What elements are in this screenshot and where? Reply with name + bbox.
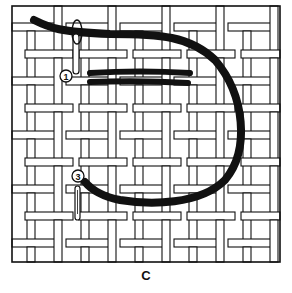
canvas-thread-horizontal — [25, 104, 73, 112]
canvas-thread-vertical — [270, 112, 278, 160]
canvas-thread-horizontal — [133, 158, 181, 166]
canvas-thread-vertical — [108, 112, 116, 160]
canvas-thread-horizontal — [174, 239, 222, 247]
canvas-thread-horizontal — [187, 104, 235, 112]
canvas-thread-horizontal — [133, 212, 181, 220]
canvas-thread-horizontal — [228, 77, 276, 85]
canvas-thread-horizontal — [174, 23, 222, 31]
canvas-thread-vertical — [270, 220, 278, 262]
canvas-thread-horizontal — [79, 104, 127, 112]
canvas-thread-vertical — [270, 6, 278, 52]
canvas-thread-horizontal — [25, 158, 73, 166]
canvas-thread-horizontal — [66, 131, 114, 139]
canvas-thread-vertical — [81, 247, 89, 262]
canvas-thread-vertical — [108, 6, 116, 52]
canvas-thread-horizontal — [133, 50, 181, 58]
canvas-thread-horizontal — [228, 185, 276, 193]
canvas-thread-horizontal — [120, 23, 168, 31]
figure-caption: C — [0, 268, 292, 283]
canvas-thread-vertical — [108, 220, 116, 262]
label-step-1: 1 — [60, 70, 72, 82]
canvas-thread-horizontal — [133, 104, 181, 112]
canvas-thread-horizontal — [25, 50, 73, 58]
needlepoint-diagram: 1 3 — [0, 0, 292, 293]
stitch-upper — [90, 72, 190, 74]
canvas-thread-vertical — [216, 6, 224, 52]
label-step-1-text: 1 — [63, 72, 68, 82]
canvas-thread-horizontal — [66, 239, 114, 247]
canvas-thread-vertical — [270, 166, 278, 214]
canvas-thread-horizontal — [79, 158, 127, 166]
canvas-thread-vertical — [162, 6, 170, 52]
canvas-thread-vertical — [270, 58, 278, 106]
canvas-thread-horizontal — [228, 131, 276, 139]
canvas-thread-horizontal — [120, 131, 168, 139]
canvas-thread-horizontal — [120, 185, 168, 193]
canvas-thread-vertical — [162, 112, 170, 160]
canvas-thread-horizontal — [228, 23, 276, 31]
canvas-thread-vertical — [135, 247, 143, 262]
canvas-thread-vertical — [54, 112, 62, 160]
canvas-thread-horizontal — [241, 212, 280, 220]
canvas-thread-horizontal — [79, 50, 127, 58]
canvas-thread-horizontal — [120, 239, 168, 247]
canvas-thread-vertical — [54, 220, 62, 262]
canvas-thread-horizontal — [12, 239, 60, 247]
canvas-thread-horizontal — [12, 185, 60, 193]
canvas-thread-horizontal — [79, 212, 127, 220]
canvas-thread-horizontal — [187, 212, 235, 220]
canvas-thread-vertical — [54, 166, 62, 214]
canvas-thread-vertical — [243, 247, 251, 262]
stitch-lower — [90, 81, 188, 83]
canvas-thread-horizontal — [241, 104, 280, 112]
canvas-thread-vertical — [108, 166, 116, 214]
canvas-thread-horizontal — [174, 131, 222, 139]
canvas-thread-vertical — [27, 247, 35, 262]
canvas-thread-horizontal — [12, 131, 60, 139]
canvas-thread-horizontal — [241, 50, 280, 58]
canvas-thread-vertical — [216, 220, 224, 262]
canvas-thread-horizontal — [187, 158, 235, 166]
canvas-thread-vertical — [216, 112, 224, 160]
canvas-thread-horizontal — [25, 212, 73, 220]
canvas-thread-horizontal — [241, 158, 280, 166]
canvas-thread-vertical — [189, 247, 197, 262]
canvas-thread-vertical — [162, 220, 170, 262]
canvas-thread-horizontal — [12, 77, 60, 85]
needle-bottom — [75, 186, 80, 220]
canvas-thread-horizontal — [228, 239, 276, 247]
label-step-3-text: 3 — [75, 172, 80, 182]
canvas-thread-vertical — [162, 166, 170, 214]
label-step-3: 3 — [72, 170, 84, 182]
canvas-thread-vertical — [54, 58, 62, 106]
